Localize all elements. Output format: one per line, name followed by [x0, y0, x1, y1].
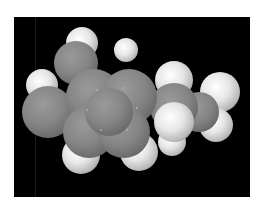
specular-dot [122, 87, 124, 89]
molecule-render [14, 17, 250, 197]
hydrogen-atom [154, 102, 194, 142]
specular-dot [86, 109, 88, 111]
specular-dot [136, 107, 138, 109]
specular-dot [126, 129, 128, 131]
hydrogen-atom [114, 38, 138, 62]
specular-dot [96, 89, 98, 91]
specular-dot [100, 129, 102, 131]
